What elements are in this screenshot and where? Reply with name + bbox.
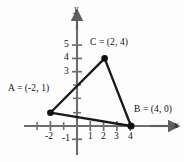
figure-canvas: y x 5 4 3 -1 -2 1 2 3 4 A = (-2, 1) B = … — [0, 0, 184, 162]
y-axis-label: y — [74, 5, 78, 15]
vertex-b — [127, 122, 134, 129]
y-tick-3: 3 — [64, 67, 69, 77]
point-label-c: C = (2, 4) — [90, 38, 128, 48]
vertex-a — [47, 109, 54, 116]
point-label-b: B = (4, 0) — [134, 105, 172, 115]
triangle-abc — [50, 58, 131, 126]
x-tick-4: 4 — [128, 132, 133, 142]
x-axis-label: x — [174, 121, 178, 131]
x-axis — [24, 121, 170, 131]
x-tick-1: 1 — [88, 132, 93, 142]
x-tick-neg2: -2 — [45, 132, 53, 142]
vertex-c — [101, 55, 108, 62]
y-tick-neg1: -1 — [62, 134, 70, 144]
y-tick-5: 5 — [64, 40, 69, 50]
point-label-a: A = (-2, 1) — [8, 84, 49, 94]
y-tick-4: 4 — [64, 53, 69, 63]
x-tick-3: 3 — [114, 132, 119, 142]
x-tick-2: 2 — [101, 132, 106, 142]
